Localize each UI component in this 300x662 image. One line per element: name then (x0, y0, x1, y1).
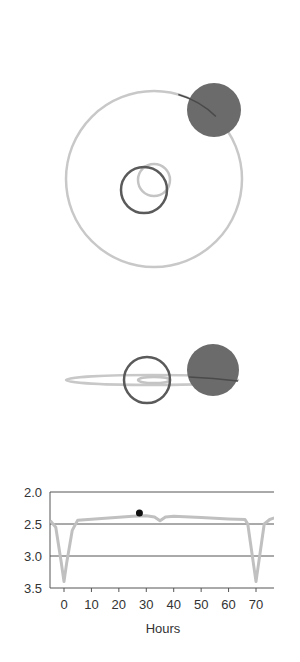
x-axis-title: Hours (146, 621, 181, 636)
gridlines (50, 492, 274, 556)
light-curve-line (50, 516, 275, 582)
side-view (66, 344, 239, 403)
x-tick-label: 10 (84, 597, 98, 612)
companion-star-icon (121, 167, 167, 213)
x-tick-label: 40 (166, 597, 180, 612)
x-tick-label: 70 (249, 597, 263, 612)
x-tick-label: 20 (112, 597, 126, 612)
x-tick-label: 50 (194, 597, 208, 612)
primary-star-side-icon (187, 344, 239, 396)
y-tick-label: 3.5 (24, 581, 42, 596)
inner-orbit-path-side (138, 377, 170, 383)
x-tick-label: 30 (139, 597, 153, 612)
light-curve-chart: 2.02.53.03.5 010203040506070 Hours (24, 485, 275, 636)
y-tick-label: 2.5 (24, 517, 42, 532)
current-phase-marker (136, 510, 143, 517)
y-tick-labels: 2.02.53.03.5 (24, 485, 42, 596)
y-tick-label: 3.0 (24, 549, 42, 564)
x-tick-label: 0 (60, 597, 67, 612)
primary-star-icon (187, 83, 241, 137)
figure-canvas: 2.02.53.03.5 010203040506070 Hours (0, 0, 300, 662)
top-view (66, 83, 242, 267)
x-tick-label: 60 (221, 597, 235, 612)
x-tick-labels: 010203040506070 (60, 588, 263, 612)
companion-star-side-icon (124, 357, 170, 403)
y-tick-label: 2.0 (24, 485, 42, 500)
